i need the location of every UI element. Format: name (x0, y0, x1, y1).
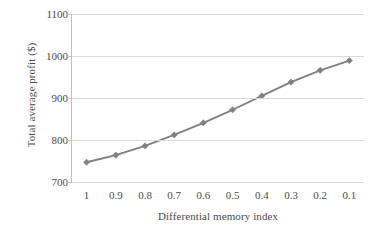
x-axis-title: Differential memory index (72, 209, 364, 223)
x-axis-tick-label: 0.1 (329, 188, 369, 202)
chart-container: Total average profit ($) 700800900100011… (0, 0, 377, 231)
data-point-marker (84, 159, 90, 165)
y-axis-tick-mark (67, 14, 72, 15)
y-axis-tick-label: 1000 (36, 50, 68, 62)
y-axis-tick-mark (67, 98, 72, 99)
y-axis-tick-mark (67, 140, 72, 141)
data-point-marker (142, 143, 148, 149)
gridline-y (72, 140, 364, 141)
y-axis-tick-labels: 70080090010001100 (36, 8, 68, 188)
gridline-y (72, 14, 364, 15)
data-point-marker (171, 132, 177, 138)
data-point-marker (317, 67, 323, 73)
gridline-y (72, 56, 364, 57)
y-axis-tick-mark (67, 182, 72, 183)
data-point-marker (200, 120, 206, 126)
series-polyline (87, 61, 350, 163)
x-axis-tick-labels: 10.90.80.70.60.50.40.30.20.1 (72, 188, 364, 204)
gridline-y (72, 98, 364, 99)
y-axis-tick-mark (67, 56, 72, 57)
y-axis-tick-label: 900 (36, 92, 68, 104)
gridline-y (72, 182, 364, 183)
data-point-marker (288, 79, 294, 85)
data-point-marker (346, 58, 352, 64)
y-axis-tick-label: 800 (36, 134, 68, 146)
data-point-marker (113, 152, 119, 158)
y-axis-tick-label: 700 (36, 176, 68, 188)
y-axis-tick-label: 1100 (36, 8, 68, 20)
plot-area (72, 14, 364, 182)
data-point-marker (230, 107, 236, 113)
